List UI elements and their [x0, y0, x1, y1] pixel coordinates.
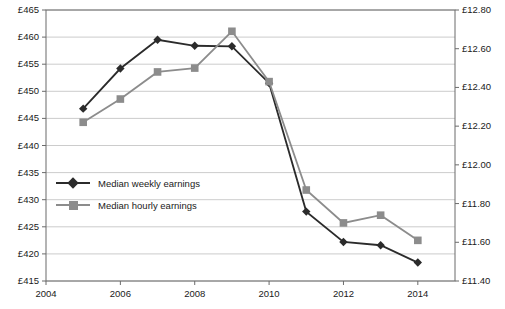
- chart-legend: Median weekly earnings Median hourly ear…: [56, 172, 226, 216]
- y-right-tick-label: £12.00: [462, 160, 491, 170]
- x-tick-label: 2012: [323, 289, 363, 299]
- y-left-tick-label: £420: [0, 249, 39, 259]
- y-left-tick-label: £455: [0, 59, 39, 69]
- y-left-tick-label: £450: [0, 86, 39, 96]
- y-right-tick-label: £12.40: [462, 82, 491, 92]
- square-icon: [69, 201, 78, 210]
- x-tick-label: 2010: [249, 289, 289, 299]
- chart-container: Median weekly earnings Median hourly ear…: [0, 0, 505, 309]
- diamond-icon: [67, 177, 78, 188]
- legend-marker-weekly: [56, 176, 90, 190]
- chart-plot-area: [0, 0, 505, 309]
- y-left-tick-label: £425: [0, 222, 39, 232]
- legend-marker-hourly: [56, 198, 90, 212]
- legend-item-weekly: Median weekly earnings: [56, 172, 226, 194]
- y-right-tick-label: £11.60: [462, 237, 490, 247]
- y-left-tick-label: £430: [0, 195, 39, 205]
- y-left-tick-label: £435: [0, 168, 39, 178]
- legend-item-hourly: Median hourly earnings: [56, 194, 226, 216]
- y-left-tick-label: £415: [0, 276, 39, 286]
- y-right-tick-label: £11.40: [462, 276, 490, 286]
- y-left-tick-label: £445: [0, 113, 39, 123]
- y-left-tick-label: £465: [0, 5, 39, 15]
- legend-label-hourly: Median hourly earnings: [90, 200, 197, 211]
- x-tick-label: 2008: [175, 289, 215, 299]
- y-left-tick-label: £460: [0, 32, 39, 42]
- x-tick-label: 2006: [100, 289, 140, 299]
- y-left-tick-label: £440: [0, 141, 39, 151]
- y-right-tick-label: £12.60: [462, 44, 491, 54]
- series-line-0: [83, 40, 418, 263]
- legend-label-weekly: Median weekly earnings: [90, 178, 200, 189]
- x-tick-label: 2004: [26, 289, 66, 299]
- y-right-tick-label: £12.80: [462, 5, 491, 15]
- y-right-tick-label: £11.80: [462, 199, 490, 209]
- x-tick-label: 2014: [398, 289, 438, 299]
- y-right-tick-label: £12.20: [462, 121, 491, 131]
